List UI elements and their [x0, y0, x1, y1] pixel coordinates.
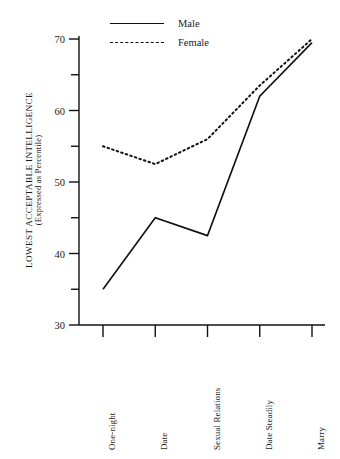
y-axis-tick-label: 40 [41, 248, 65, 259]
x-axis-tick-label: Marry [316, 427, 326, 450]
y-axis-tick-label: 70 [41, 34, 65, 45]
y-axis-ticks [69, 39, 79, 325]
series-line-female [103, 39, 312, 164]
x-axis-tick-label: Sexual Relations [212, 388, 222, 450]
axis-lines [79, 36, 325, 325]
y-axis-tick-label: 50 [41, 177, 65, 188]
x-axis-tick-label: One-night [107, 413, 117, 450]
plot-area [0, 0, 340, 459]
y-axis-tick-label: 30 [41, 320, 65, 331]
chart-container: LOWEST ACCEPTABLE INTELLIGENCE (Expresse… [0, 0, 340, 459]
x-axis-tick-label: Date Steadily [264, 400, 274, 450]
x-axis-ticks [103, 325, 312, 337]
data-series-layer [103, 39, 312, 289]
y-axis-tick-label: 60 [41, 105, 65, 116]
series-line-male [103, 43, 312, 290]
x-axis-tick-label: Date [159, 433, 169, 450]
